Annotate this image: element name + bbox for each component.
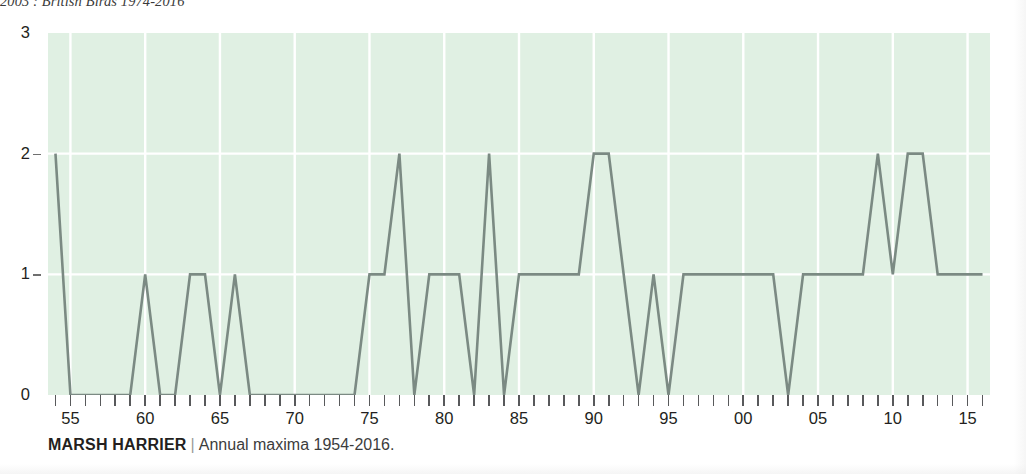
x-tick-mark: [698, 395, 700, 406]
x-tick-label: 65: [211, 409, 229, 428]
x-tick-label: 10: [884, 409, 902, 428]
x-tick-mark: [55, 395, 57, 406]
x-tick-mark: [832, 395, 834, 406]
x-tick-mark: [488, 395, 490, 406]
x-tick-mark: [249, 395, 251, 406]
y-tick-label: 0: [4, 386, 30, 403]
x-tick-mark: [638, 395, 640, 406]
x-tick-mark: [458, 395, 460, 406]
x-tick-mark: [100, 395, 102, 406]
caption-subtitle: Annual maxima 1954-2016.: [199, 436, 395, 453]
x-tick-label: 55: [61, 409, 79, 428]
x-tick-mark: [982, 395, 984, 406]
x-tick-mark: [114, 395, 116, 406]
chart-canvas: [48, 33, 990, 395]
x-tick-mark: [742, 395, 744, 406]
x-tick-label: 05: [809, 409, 827, 428]
x-tick-mark: [503, 395, 505, 406]
plot-area: [48, 33, 990, 395]
x-tick-mark: [563, 395, 565, 406]
y-tick-label: 3: [4, 24, 30, 41]
x-tick-mark: [70, 395, 72, 406]
x-tick-mark: [668, 395, 670, 406]
x-tick-mark: [728, 395, 730, 406]
figure-page: 2003 : British Birds 1974-2016 0123 5560…: [0, 0, 1026, 474]
x-tick-mark: [189, 395, 191, 406]
x-tick-mark: [369, 395, 371, 406]
x-tick-mark: [578, 395, 580, 406]
x-tick-mark: [713, 395, 715, 406]
x-tick-mark: [384, 395, 386, 406]
x-tick-mark: [399, 395, 401, 406]
x-tick-mark: [85, 395, 87, 406]
x-tick-label: 85: [510, 409, 528, 428]
y-tick-label: 2: [4, 145, 30, 162]
x-tick-mark: [907, 395, 909, 406]
x-tick-mark: [159, 395, 161, 406]
x-tick-mark: [787, 395, 789, 406]
x-tick-mark: [967, 395, 969, 406]
x-tick-mark: [922, 395, 924, 406]
x-tick-mark: [309, 395, 311, 406]
x-tick-mark: [772, 395, 774, 406]
x-tick-mark: [294, 395, 296, 406]
x-tick-mark: [354, 395, 356, 406]
x-tick-label: 95: [659, 409, 677, 428]
x-tick-mark: [533, 395, 535, 406]
y-tick-mark: [33, 274, 41, 276]
x-tick-mark: [219, 395, 221, 406]
x-tick-mark: [817, 395, 819, 406]
y-tick-mark: [33, 154, 41, 156]
x-tick-mark: [234, 395, 236, 406]
x-tick-mark: [518, 395, 520, 406]
x-tick-label: 15: [958, 409, 976, 428]
x-tick-label: 60: [136, 409, 154, 428]
x-tick-mark: [279, 395, 281, 406]
x-tick-mark: [264, 395, 266, 406]
x-tick-mark: [892, 395, 894, 406]
x-tick-mark: [862, 395, 864, 406]
x-tick-mark: [473, 395, 475, 406]
x-tick-mark: [653, 395, 655, 406]
x-tick-mark: [129, 395, 131, 406]
x-tick-mark: [174, 395, 176, 406]
x-tick-mark: [144, 395, 146, 406]
x-tick-mark: [548, 395, 550, 406]
x-tick-mark: [952, 395, 954, 406]
x-tick-mark: [877, 395, 879, 406]
x-tick-label: 90: [585, 409, 603, 428]
y-tick-label: 1: [4, 265, 30, 282]
x-tick-mark: [937, 395, 939, 406]
x-tick-label: 80: [435, 409, 453, 428]
x-tick-mark: [608, 395, 610, 406]
figure-caption: MARSH HARRIER|Annual maxima 1954-2016.: [48, 436, 394, 454]
x-tick-label: 00: [734, 409, 752, 428]
caption-separator: |: [187, 436, 199, 453]
running-head: 2003 : British Birds 1974-2016: [0, 0, 420, 11]
scan-edge-bottom: [0, 464, 1026, 474]
y-axis: 0123: [0, 18, 30, 418]
x-tick-mark: [443, 395, 445, 406]
x-tick-mark: [683, 395, 685, 406]
x-tick-label: 70: [286, 409, 304, 428]
x-axis-labels: 55606570758085909500051015: [0, 409, 1026, 433]
x-tick-mark: [204, 395, 206, 406]
x-axis-ticks: [48, 395, 990, 407]
x-tick-mark: [339, 395, 341, 406]
x-tick-mark: [414, 395, 416, 406]
x-tick-mark: [324, 395, 326, 406]
x-tick-mark: [428, 395, 430, 406]
x-tick-mark: [802, 395, 804, 406]
x-tick-mark: [757, 395, 759, 406]
x-tick-label: 75: [360, 409, 378, 428]
caption-species: MARSH HARRIER: [48, 436, 187, 453]
x-tick-mark: [847, 395, 849, 406]
x-tick-mark: [593, 395, 595, 406]
x-tick-mark: [623, 395, 625, 406]
chart-figure: 0123 55606570758085909500051015: [0, 18, 1026, 418]
